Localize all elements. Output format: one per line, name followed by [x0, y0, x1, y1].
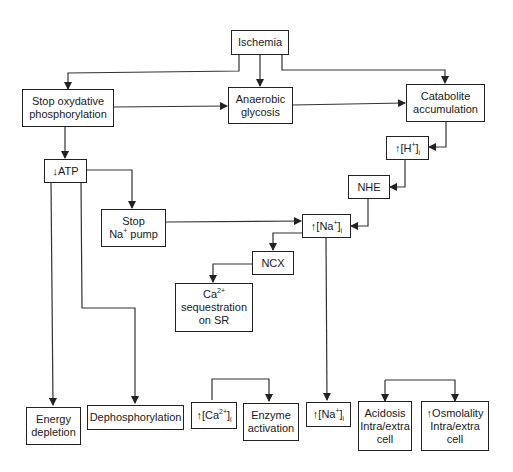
node-label: Dephosphorylation	[90, 411, 182, 424]
node-label-line2: glycosis	[241, 106, 280, 119]
label-base: Osmolality	[432, 407, 483, 419]
node-label: ↑[Na+]i	[311, 220, 342, 233]
node-label-line2: Intra/extra	[430, 420, 480, 433]
label-base: [Na	[318, 408, 335, 420]
node-label-line2: depletion	[31, 426, 76, 439]
node-label-line2: activation	[248, 422, 294, 435]
node-label-line2: phosphorylation	[29, 108, 107, 121]
node-ca-increase: ↑[Ca2+]i	[191, 402, 237, 429]
node-h-plus-increase: ↑[H+]i	[386, 136, 429, 160]
node-catabolite-accumulation: Catabolite accumulation	[406, 84, 485, 122]
label-sup: 2+	[219, 408, 227, 415]
label-sub: i	[230, 416, 232, 423]
node-na-plus-increase: ↑[Na+]i	[302, 214, 351, 238]
label-base: [Na	[316, 220, 333, 232]
label-rest: pump	[127, 228, 158, 240]
node-anaerobic-glycosis: Anaerobic glycosis	[228, 87, 293, 124]
node-energy-depletion: Energy depletion	[26, 407, 81, 445]
node-enzyme-activation: Enzyme activation	[243, 403, 299, 441]
node-label: NHE	[357, 181, 380, 194]
node-acidosis: Acidosis Intra/extra cell	[358, 401, 412, 451]
label-base: [H	[400, 142, 411, 154]
node-na-plus-increase-bottom: ↑[Na+]i	[306, 402, 351, 427]
node-label: ↑[Ca2+]i	[196, 409, 231, 422]
node-osmolality: ↑Osmolality Intra/extra cell	[421, 401, 489, 451]
node-label: NCX	[261, 257, 284, 270]
node-label-line3: cell	[377, 433, 394, 446]
label-sub: i	[341, 227, 343, 234]
label-sub: i	[343, 415, 345, 422]
node-label-line1: Stop	[122, 215, 145, 228]
node-label-line1: Enzyme	[251, 409, 291, 422]
node-stop-oxidative-phosphorylation: Stop oxydative phosphorylation	[22, 89, 114, 127]
label-base: [Ca	[202, 409, 219, 421]
node-label-line2: Intra/extra	[360, 420, 410, 433]
node-nhe: NHE	[348, 175, 390, 199]
node-label: ↑[H+]i	[395, 142, 420, 155]
node-stop-na-pump: Stop Na+ pump	[101, 209, 166, 247]
node-label-line2: Na+ pump	[109, 228, 158, 241]
node-atp-decrease: ↓ATP	[44, 159, 87, 183]
node-label-line1: Anaerobic	[236, 93, 286, 106]
label-base: ATP	[58, 165, 79, 177]
node-label-line1: Catabolite	[421, 90, 471, 103]
node-ischemia: Ischemia	[231, 30, 289, 55]
node-dephosphorylation: Dephosphorylation	[87, 405, 184, 430]
node-label-line1: Ca2+	[203, 288, 225, 301]
node-label: ↑[Na+]i	[313, 408, 344, 421]
label-sup: 2+	[217, 287, 225, 294]
node-label-line1: ↑Osmolality	[427, 407, 484, 420]
node-label-line2: sequestration	[181, 301, 247, 314]
node-ncx: NCX	[252, 251, 294, 275]
label-base: Ca	[203, 288, 217, 300]
node-label-line3: cell	[447, 433, 464, 446]
node-label-line1: Acidosis	[365, 407, 406, 420]
node-label-line1: Energy	[36, 413, 71, 426]
node-label-line3: on SR	[199, 314, 230, 327]
node-ca-sequestration: Ca2+ sequestration on SR	[175, 283, 253, 332]
label-base: Na	[109, 228, 123, 240]
node-label-line2: accumulation	[413, 103, 478, 116]
node-label-line1: Stop oxydative	[32, 95, 104, 108]
node-label: Ischemia	[238, 36, 282, 49]
label-sub: i	[419, 149, 421, 156]
node-label: ↓ATP	[52, 165, 78, 178]
